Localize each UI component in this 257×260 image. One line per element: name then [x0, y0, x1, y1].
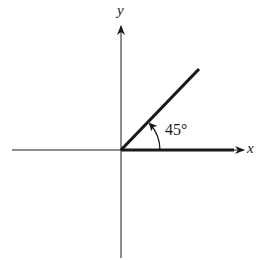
- diagram-canvas: [0, 0, 257, 260]
- y-axis-label: y: [117, 3, 124, 18]
- angle-label: 45°: [165, 122, 187, 138]
- x-axis-label: x: [247, 141, 254, 156]
- angle-arc-arrow: [150, 124, 161, 151]
- angle-diagram: y x 45°: [0, 0, 257, 260]
